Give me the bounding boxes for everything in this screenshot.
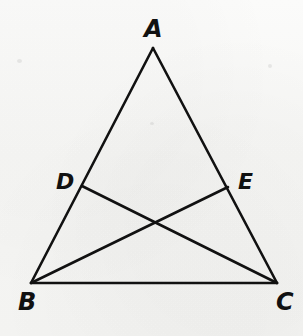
geometry-canvas [0, 0, 303, 336]
vertex-label-d: D [56, 171, 74, 193]
segment-AC [153, 48, 277, 283]
vertex-label-e: E [238, 171, 253, 193]
vertex-label-c: C [276, 290, 294, 314]
geometry-figure: A B C D E [0, 0, 303, 336]
segment-EB [31, 187, 228, 283]
vertex-label-a: A [144, 17, 163, 41]
vertex-label-b: B [18, 290, 36, 314]
segment-AB [31, 48, 153, 283]
segment-DC [82, 186, 277, 283]
